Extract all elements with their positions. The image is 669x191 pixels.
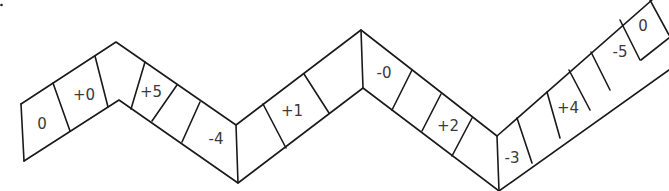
cell-5-label: -4 (209, 130, 224, 148)
cell-18-label: 0 (638, 17, 648, 35)
cell-9-label: -0 (377, 64, 392, 82)
track-outline (21, 0, 669, 191)
stray-mark (0, 4, 3, 7)
cell-7-label: +1 (281, 102, 303, 120)
cell-13-label: -3 (505, 149, 520, 167)
cell-3-label: +5 (140, 83, 162, 101)
cell-15-label: +4 (557, 99, 579, 117)
cell-0-label: 0 (37, 115, 47, 133)
cell-11-label: +2 (437, 117, 459, 135)
game-board: 0 +0 +5 -4 +1 -0 +2 -3 +4 -5 0 (0, 0, 669, 191)
cell-1-label: +0 (73, 86, 95, 104)
cell-labels: 0 +0 +5 -4 +1 -0 +2 -3 +4 -5 0 (37, 17, 648, 167)
cell-17-label: -5 (613, 43, 628, 61)
